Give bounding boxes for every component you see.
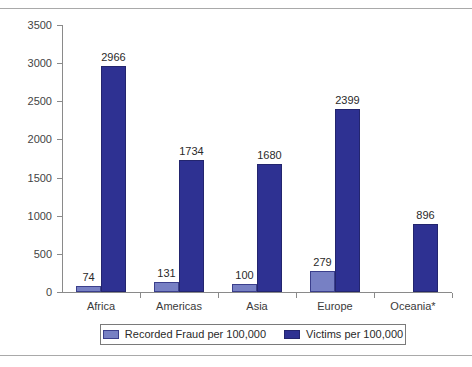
- bar: [101, 66, 126, 292]
- x-axis-category-label: Africa: [62, 301, 140, 312]
- clipped-caption-above: [14, 0, 454, 7]
- x-axis-category-label: Americas: [140, 301, 218, 312]
- bar: [232, 284, 257, 292]
- bar-value-label: 896: [401, 210, 450, 221]
- x-axis-tick: [140, 293, 141, 298]
- y-axis-tick: [57, 216, 62, 217]
- bar: [257, 164, 282, 292]
- bar: [413, 224, 438, 292]
- legend-swatch-icon-recorded-fraud: [103, 330, 119, 339]
- x-axis-tick: [218, 293, 219, 298]
- bar-value-label: 1734: [167, 146, 216, 157]
- y-axis-tick-label: 3500: [0, 20, 52, 31]
- bar: [335, 109, 360, 292]
- y-axis-tick-label: 1500: [0, 172, 52, 183]
- x-axis-tick: [296, 293, 297, 298]
- x-axis-tick: [374, 293, 375, 298]
- y-axis-tick-label: 1000: [0, 210, 52, 221]
- legend-swatch-icon-victims: [284, 330, 300, 339]
- y-axis-tick: [57, 292, 62, 293]
- bar-value-label: 2966: [89, 52, 138, 63]
- y-axis-tick-label: 2500: [0, 96, 52, 107]
- bottom-divider-rule: [0, 355, 472, 356]
- y-axis-tick: [57, 63, 62, 64]
- bar-value-label: 1680: [245, 150, 294, 161]
- y-axis-tick-label: 2000: [0, 134, 52, 145]
- top-divider-rule: [0, 8, 472, 9]
- legend-entry-recorded-fraud: Recorded Fraud per 100,000: [103, 329, 266, 340]
- legend-entry-victims: Victims per 100,000: [284, 329, 403, 340]
- y-axis-tick: [57, 25, 62, 26]
- x-axis-category-label: Europe: [296, 301, 374, 312]
- y-axis-tick: [57, 101, 62, 102]
- x-axis-tick: [452, 293, 453, 298]
- x-axis-category-label: Oceania*: [374, 301, 452, 312]
- y-axis-tick: [57, 254, 62, 255]
- y-axis-tick-label: 0: [0, 287, 52, 298]
- y-axis-tick-label: 3000: [0, 58, 52, 69]
- bar: [179, 160, 204, 292]
- x-axis-category-label: Asia: [218, 301, 296, 312]
- chart-legend: Recorded Fraud per 100,000 Victims per 1…: [100, 324, 406, 345]
- legend-label-victims: Victims per 100,000: [306, 329, 403, 340]
- x-axis-line: [62, 292, 452, 293]
- chart-figure: 0500100015002000250030003500 AfricaAmeri…: [0, 0, 472, 367]
- bar: [154, 282, 179, 292]
- y-axis-tick: [57, 178, 62, 179]
- bar: [76, 286, 101, 292]
- bar-value-label: 2399: [323, 95, 372, 106]
- y-axis-tick: [57, 139, 62, 140]
- y-axis-line: [62, 25, 63, 293]
- legend-label-recorded-fraud: Recorded Fraud per 100,000: [125, 329, 266, 340]
- y-axis-tick-label: 500: [0, 248, 52, 259]
- bar: [310, 271, 335, 292]
